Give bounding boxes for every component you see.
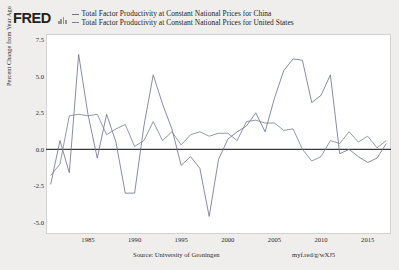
fred-logo: FRED (13, 11, 51, 25)
y-axis-tick-labels: 7.55.02.50.0-2.5-5.0 (20, 34, 44, 234)
x-tick-label: 2010 (314, 236, 327, 243)
chart-footer: Source: University of Groningen myf.red/… (0, 251, 399, 263)
y-tick-label: 0.0 (36, 146, 44, 153)
y-tick-label: 7.5 (36, 36, 44, 43)
y-tick-label: -5.0 (34, 219, 44, 226)
short-url: myf.red/g/wXJ5 (292, 251, 335, 258)
source-note: Source: University of Groningen (133, 251, 220, 258)
chart-svg (46, 34, 391, 234)
fred-bar-chart-mark-icon (58, 16, 67, 24)
chart-legend: Total Factor Productivity at Constant Na… (72, 10, 294, 27)
y-axis-title: Percent Change from Year Ago (5, 0, 12, 86)
x-axis-tick-labels: 1985199019952000200520102015 (46, 236, 391, 248)
x-tick-label: 2000 (221, 236, 234, 243)
y-tick-label: -2.5 (34, 182, 44, 189)
y-tick-label: 5.0 (36, 73, 44, 80)
chart-plot-area (46, 34, 391, 234)
legend-item-united-states: Total Factor Productivity at Constant Na… (72, 19, 294, 28)
x-tick-label: 1990 (128, 236, 141, 243)
y-tick-label: 2.5 (36, 109, 44, 116)
x-tick-label: 1985 (81, 236, 94, 243)
chart-header: FRED Total Factor Productivity at Consta… (0, 0, 399, 30)
fred-chart-page: FRED Total Factor Productivity at Consta… (0, 0, 399, 270)
x-tick-label: 2015 (361, 236, 374, 243)
x-tick-label: 1995 (175, 236, 188, 243)
legend-label: Total Factor Productivity at Constant Na… (82, 19, 294, 28)
series-line-china (51, 54, 387, 216)
legend-swatch-icon (72, 22, 79, 23)
legend-swatch-icon (72, 14, 79, 15)
x-tick-label: 2005 (268, 236, 281, 243)
